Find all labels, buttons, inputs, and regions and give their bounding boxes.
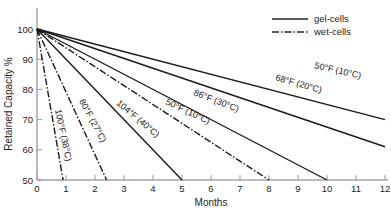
x-tick-label: 5	[179, 183, 184, 194]
x-tick-label: 0	[34, 183, 39, 194]
x-tick-label: 6	[208, 183, 213, 194]
y-tick-label: 60	[22, 144, 33, 155]
series-line	[37, 29, 385, 147]
retained-capacity-chart: 0123456789101112 5060708090100 Months Re…	[0, 0, 391, 211]
label-gel-104f: 104°F (40°C)	[115, 98, 162, 140]
x-tick-label: 2	[92, 183, 97, 194]
y-tick-label: 70	[22, 114, 33, 125]
x-tick-label: 11	[351, 183, 361, 194]
x-tick-label: 8	[266, 183, 271, 194]
label-gel-50f: 50°F (10°C)	[314, 60, 363, 80]
y-tick-label: 100	[17, 24, 33, 35]
y-ticks: 5060708090100	[17, 24, 42, 186]
label-wet-100f: 100°F (38°C)	[53, 108, 74, 162]
line-labels: 50°F (10°C) 68°F (20°C) 86°F (30°C) 50°F…	[53, 60, 362, 162]
x-tick-label: 7	[237, 183, 242, 194]
y-tick-label: 90	[22, 54, 33, 65]
x-tick-label: 10	[322, 183, 333, 194]
y-tick-label: 50	[22, 175, 33, 186]
legend-wet-label: wet-cells	[313, 26, 351, 37]
x-tick-label: 9	[295, 183, 300, 194]
x-tick-label: 4	[150, 183, 155, 194]
x-ticks: 0123456789101112	[34, 175, 390, 194]
x-axis-label: Months	[195, 197, 228, 208]
x-tick-label: 1	[63, 183, 68, 194]
legend: gel-cells wet-cells	[272, 13, 351, 37]
label-gel-86f: 86°F (30°C)	[192, 88, 240, 114]
y-tick-label: 80	[22, 84, 33, 95]
x-tick-label: 12	[380, 183, 391, 194]
label-gel-68f: 68°F (20°C)	[274, 72, 323, 95]
x-tick-label: 3	[121, 183, 126, 194]
legend-gel-label: gel-cells	[314, 13, 349, 24]
label-wet-80f: 80°F (27°C)	[77, 97, 108, 144]
y-axis-label: Retained Capacity %	[3, 57, 14, 150]
